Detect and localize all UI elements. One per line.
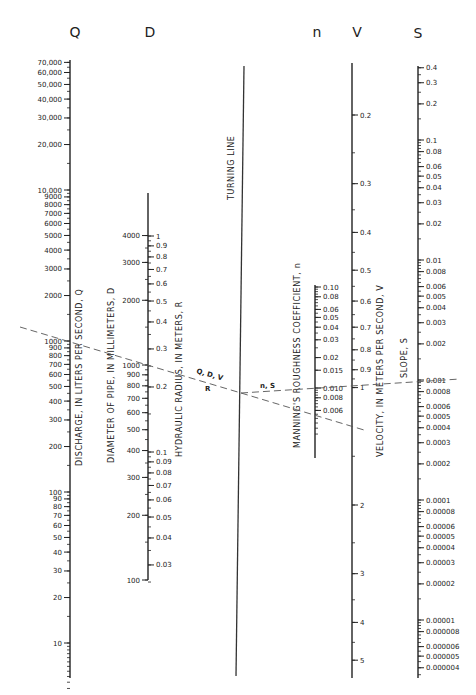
tick-label: 30 <box>53 567 62 575</box>
tick-label: 70,000 <box>38 59 63 67</box>
tick-label: 0.04 <box>426 184 442 192</box>
v-scale: 0.20.30.40.50.60.70.80.912345 <box>352 63 372 678</box>
tick-label: 0.01 <box>426 257 442 265</box>
tick-label: 0.1 <box>156 449 167 457</box>
tick-label: 0.0005 <box>426 413 451 421</box>
tick-label: 0.000006 <box>426 643 460 651</box>
tick-label: 0.008 <box>323 394 343 402</box>
tick-label: 3000 <box>44 265 62 273</box>
tick-label: 0.07 <box>156 482 172 490</box>
tick-label: 0.08 <box>156 469 172 477</box>
tick-label: 700 <box>49 361 62 369</box>
tick-label: 4000 <box>122 232 140 240</box>
tick-label: 0.4 <box>156 318 168 326</box>
tick-label: 400 <box>127 447 140 455</box>
tick-label: 10 <box>53 640 62 648</box>
tick-label: 0.03 <box>426 199 442 207</box>
label-ns: n, S <box>260 382 275 390</box>
tick-label: 0.000004 <box>426 664 460 672</box>
tick-label: 50,000 <box>38 81 63 89</box>
tick-label: 0.0001 <box>426 497 451 505</box>
tick-label: 40 <box>53 549 62 557</box>
tick-label: 0.9 <box>156 242 167 250</box>
tick-label: 4000 <box>44 247 62 255</box>
tick-label: 0.8 <box>360 346 371 354</box>
header-d: D <box>145 24 156 40</box>
v-axis-label: VELOCITY, IN METERS PER SECOND, V <box>376 285 385 457</box>
tick-label: 0.000008 <box>426 628 459 636</box>
tick-label: 0.003 <box>426 319 446 327</box>
tick-label: 0.9 <box>360 366 371 374</box>
tick-label: 1000 <box>122 362 140 370</box>
tick-label: 0.0006 <box>426 403 451 411</box>
tick-label: 0.3 <box>426 79 437 87</box>
tick-label: 700 <box>127 395 140 403</box>
nomogram: Q D n V S 70,00060,00050,00040,00030,000… <box>0 0 476 695</box>
tick-label: 0.5 <box>360 267 371 275</box>
tick-label: 0.0002 <box>426 460 451 468</box>
tick-label: 0.08 <box>426 148 442 156</box>
tick-label: 0.006 <box>426 283 447 291</box>
tick-label: 20,000 <box>38 141 63 149</box>
tick-label: 500 <box>127 426 140 434</box>
tick-label: 0.2 <box>156 383 167 391</box>
turning-line-label: TURNING LINE <box>227 136 236 201</box>
s-scale: 0.40.30.20.10.080.060.050.040.030.020.01… <box>418 64 460 678</box>
tick-label: 3 <box>360 570 364 578</box>
tick-label: 0.6 <box>156 280 168 288</box>
tick-label: 800 <box>49 352 62 360</box>
tick-label: 0.02 <box>323 354 339 362</box>
tick-label: 0.7 <box>360 324 371 332</box>
header-s: S <box>414 25 423 41</box>
header-n: n <box>313 24 322 40</box>
tick-label: 0.3 <box>156 345 167 353</box>
label-r: R <box>205 385 211 393</box>
header-q: Q <box>69 24 80 40</box>
tick-label: 0.1 <box>426 137 437 145</box>
tick-label: 0.05 <box>156 514 172 522</box>
tick-label: 0.00006 <box>426 523 455 531</box>
tick-label: 50 <box>53 534 62 542</box>
tick-label: 0.08 <box>323 293 339 301</box>
tick-label: 0.008 <box>426 268 446 276</box>
tick-label: 0.00008 <box>426 508 455 516</box>
tick-label: 0.000005 <box>426 653 459 661</box>
tick-label: 60 <box>53 522 62 530</box>
n-axis-label: MANNING'S ROUGHNESS COEFFICIENT, n <box>293 263 302 448</box>
tick-label: 0.06 <box>323 306 339 314</box>
tick-label: 0.00004 <box>426 544 455 552</box>
tick-label: 0.02 <box>426 220 442 228</box>
tick-label: 0.2 <box>426 100 437 108</box>
tick-label: 0.4 <box>360 229 372 237</box>
tick-label: 0.05 <box>323 314 339 322</box>
q-scale: 70,00060,00050,00040,00030,00020,00010,0… <box>38 59 71 689</box>
tick-label: 0.6 <box>360 298 372 306</box>
tick-label: 100 <box>127 577 140 585</box>
tick-label: 0.002 <box>426 340 446 348</box>
tick-label: 80 <box>53 503 62 511</box>
tick-label: 2 <box>360 502 364 510</box>
tick-label: 0.4 <box>426 64 438 72</box>
tick-label: 0.3 <box>360 180 371 188</box>
tick-label: 0.04 <box>323 324 339 332</box>
n-scale: 0.100.080.060.050.040.030.020.0150.0100.… <box>315 284 344 459</box>
tick-label: 300 <box>127 474 140 482</box>
tick-label: 30,000 <box>38 114 63 122</box>
tick-label: 0.010 <box>323 385 343 393</box>
tick-label: 0.06 <box>426 163 442 171</box>
turning-line <box>236 66 244 676</box>
tick-label: 6000 <box>44 220 62 228</box>
d-scale: 4000300020001000900800700600500400300200… <box>122 193 148 585</box>
tick-label: 8000 <box>44 201 62 209</box>
q-axis-label: DISCHARGE, IN LITERS PER SECOND, Q <box>75 289 84 466</box>
tick-label: 1 <box>156 233 160 241</box>
tick-label: 800 <box>127 382 140 390</box>
tick-label: 600 <box>127 409 140 417</box>
tick-label: 0.04 <box>156 534 172 542</box>
tick-label: 2000 <box>122 297 140 305</box>
tick-label: 200 <box>49 443 62 451</box>
tick-label: 20 <box>53 594 62 602</box>
tick-label: 200 <box>127 512 140 520</box>
tick-label: 0.2 <box>360 112 371 120</box>
tick-label: 0.0004 <box>426 424 451 432</box>
